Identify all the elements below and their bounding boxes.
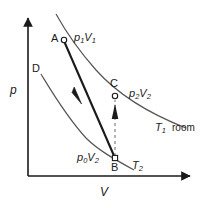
t2-subscript: 2 [139,164,143,173]
v-axis-label: V [100,186,108,198]
state-label-p2v2: p2V2 [129,88,151,101]
p-axis-label: p [10,84,17,96]
isotherm-t1-room-label: room [172,123,195,133]
isotherm-t1-label: T1 [155,122,166,135]
t2-symbol: T [132,159,139,171]
t1-symbol: T [155,121,162,133]
state-v2b-subscript: 2 [95,156,99,165]
point-c-label: C [110,78,118,89]
down-arrow-icon [72,87,82,104]
up-arrow-icon [112,104,119,119]
point-a-marker [61,37,66,42]
state-v2-subscript: 2 [147,92,151,101]
diagram-canvas [0,0,208,208]
t1-subscript: 1 [162,126,166,135]
state-v1-subscript: 1 [92,36,96,45]
point-b-marker [112,155,117,160]
pv-diagram-figure: p V A p1V1 D C p2V2 T1 room p0V2 B T2 [0,0,208,208]
point-b-label: B [111,162,118,173]
point-a-label: A [51,33,58,44]
state-label-p1v1: p1V1 [74,32,96,45]
state-v2b-symbol: V [87,151,94,163]
adiabatic-compression-line [64,41,115,158]
state-v1-symbol: V [84,31,91,43]
state-label-p0v2: p0V2 [77,152,99,165]
point-c-marker [112,93,117,98]
state-v2-symbol: V [139,87,146,99]
point-d-label: D [32,63,40,74]
isotherm-t2-label: T2 [132,160,143,173]
